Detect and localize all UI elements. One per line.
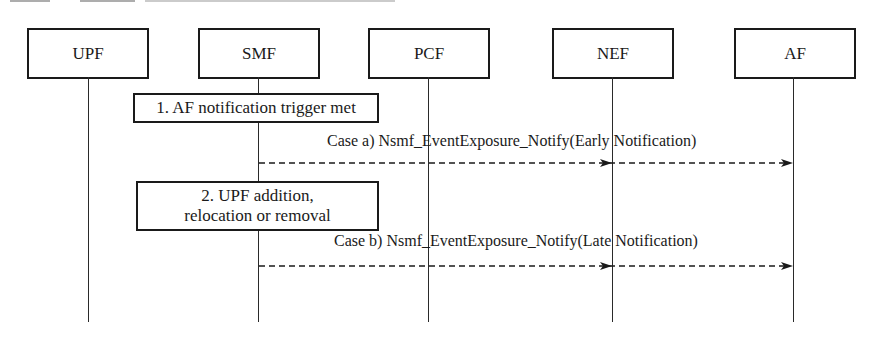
message-arrows (0, 0, 874, 343)
